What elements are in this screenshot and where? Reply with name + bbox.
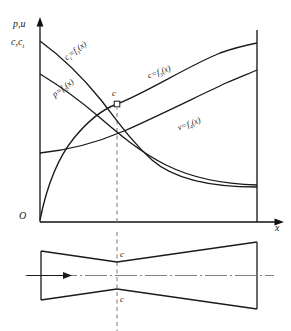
origin-label: O [19,210,26,221]
figure-container: p,u c,ct O x ct=f1(x) p=f2(x) c=f3(x) v=… [0,0,291,331]
curve-p-f2 [40,74,257,185]
x-axis-label: x [275,222,279,233]
y-axis-label-c-ct: c,ct [11,36,24,49]
nozzle-throat-label-bottom: c [120,294,124,304]
critical-point-label: c [112,88,116,98]
flow-direction-arrow [27,272,72,279]
y-axis-label-pu: p,u [13,18,26,29]
critical-point-marker [114,101,120,107]
y-axis-label-subscript: t [22,42,24,49]
nozzle-throat-label-top: c [120,249,124,259]
figure-svg [0,0,291,331]
y-axis-arrowhead [37,17,44,27]
curve-ct-f1 [40,41,257,187]
